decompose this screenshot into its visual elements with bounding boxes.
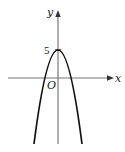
y-axis-label: y	[46, 6, 54, 19]
x-axis-label: x	[115, 72, 122, 85]
origin-label: O	[47, 79, 56, 92]
chart-canvas: y x O 5	[0, 0, 125, 152]
y-axis-arrow-icon	[55, 10, 60, 17]
parabola-figure: y x O 5	[0, 0, 125, 152]
x-axis-arrow-icon	[107, 75, 114, 80]
vertex-value-label: 5	[44, 44, 50, 56]
